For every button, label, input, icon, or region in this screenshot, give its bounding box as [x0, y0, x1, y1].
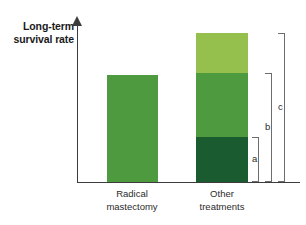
y-axis-title-line-2: survival rate — [2, 33, 74, 46]
bracket-b-label: b — [265, 122, 270, 132]
x-axis-label-line-2: treatments — [167, 201, 277, 214]
y-axis-title: Long-term survival rate — [2, 20, 74, 46]
bar-segment-medium-green — [196, 73, 248, 137]
x-axis-label-other-treatments: Other treatments — [167, 188, 277, 213]
y-axis-title-line-1: Long-term — [2, 20, 74, 33]
x-axis-label-line-1: Other — [167, 188, 277, 201]
bracket-c-spine — [284, 33, 285, 182]
bracket-a-label: a — [252, 154, 257, 164]
chart-container: Long-term survival rate Radical mastecto… — [0, 0, 306, 225]
bar-segment-light-green — [196, 33, 248, 73]
bar-segment-medium-green — [107, 75, 158, 182]
bar-segment-dark-green — [196, 137, 248, 182]
bar-other-treatments — [196, 33, 248, 182]
bracket-c-tick-bottom — [278, 181, 285, 182]
y-axis-line — [77, 24, 78, 182]
bracket-c-label: c — [278, 102, 283, 112]
bar-radical-mastectomy — [107, 75, 158, 182]
